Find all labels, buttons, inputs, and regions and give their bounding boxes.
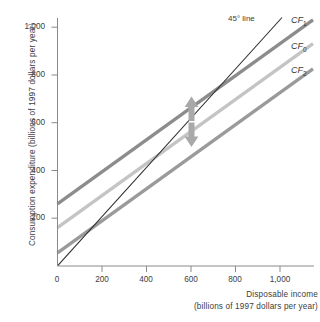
x-tick-label-400: 400: [129, 275, 163, 284]
series-label-CF2-sub: 2: [303, 70, 307, 77]
x-axis-title-main: Disposable income: [150, 289, 318, 301]
series-line-CF1: [58, 20, 314, 204]
chart-plot-area: [0, 0, 320, 322]
chart-figure: Consumption expenditure (billions of 199…: [0, 0, 320, 322]
series-label-CF1-text: CF: [291, 15, 303, 25]
chart-axes: [58, 18, 315, 266]
x-tick-label-600: 600: [174, 275, 208, 284]
y-tick-label-400: 400: [11, 166, 45, 175]
y-tick-label-200: 200: [11, 213, 45, 222]
x-tick-label-0: 0: [40, 275, 74, 284]
x-axis-title: Disposable income (billions of 1997 doll…: [150, 289, 318, 312]
series-label-CF0-sub: 0: [303, 46, 307, 53]
series-line-CF2: [58, 69, 314, 253]
x-tick-label-1000: 1,000: [263, 275, 297, 284]
series-label-CF1-sub: 1: [303, 20, 307, 27]
series-line-45-degree: [58, 18, 283, 266]
y-tick-label-800: 800: [11, 70, 45, 79]
series-line-CF0: [58, 44, 314, 228]
y-tick-label-1000: 1,000: [11, 22, 45, 31]
x-axis-title-units: (billions of 1997 dollars per year): [150, 301, 318, 313]
series-label-CF2: CF2: [291, 65, 307, 77]
x-tick-label-800: 800: [218, 275, 252, 284]
series-lines: [58, 18, 314, 266]
series-label-CF0-text: CF: [291, 41, 303, 51]
y-axis-ticks: [52, 27, 58, 218]
series-label-CF1: CF1: [291, 15, 307, 27]
series-label-CF0: CF0: [291, 41, 307, 53]
y-tick-label-600: 600: [11, 118, 45, 127]
x-axis-ticks: [102, 266, 280, 272]
series-label-CF2-text: CF: [291, 65, 303, 75]
forty-five-degree-line-label: 45° line: [228, 14, 255, 23]
x-tick-label-200: 200: [85, 275, 119, 284]
